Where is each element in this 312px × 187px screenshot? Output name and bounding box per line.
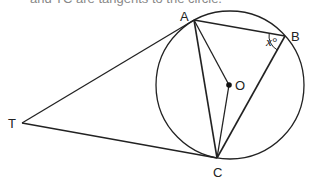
label-A: A [180, 9, 189, 24]
angle-x-label: x° [265, 34, 277, 49]
label-T: T [8, 116, 16, 131]
label-C: C [213, 165, 222, 180]
geometry-diagram: x° A B C O T [0, 0, 312, 187]
label-B: B [291, 29, 300, 44]
label-O: O [235, 78, 245, 93]
tangent-TC [22, 123, 217, 158]
tangent-TA [22, 20, 194, 123]
center-dot [226, 82, 232, 88]
